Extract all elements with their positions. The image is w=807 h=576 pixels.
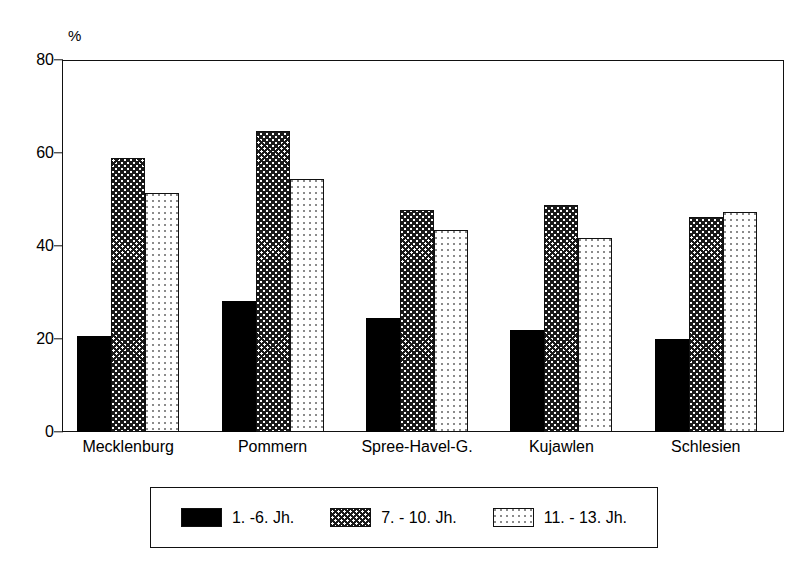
bars-layer — [62, 60, 784, 432]
x-tick-label: Mecklenburg — [82, 437, 174, 456]
legend-label: 7. - 10. Jh. — [381, 510, 457, 526]
legend-swatch-checkered — [330, 508, 371, 527]
bar[interactable] — [77, 336, 111, 432]
bar[interactable] — [434, 230, 468, 432]
x-tick-label: Spree-Havel-G. — [361, 437, 472, 456]
bar[interactable] — [689, 217, 723, 432]
x-axis-labels: MecklenburgPommernSpree-Havel-G.Kujawlen… — [62, 437, 784, 467]
bar[interactable] — [145, 193, 179, 432]
bar[interactable] — [655, 339, 689, 432]
legend-item[interactable]: 1. -6. Jh. — [181, 508, 294, 527]
bar[interactable] — [290, 179, 324, 432]
x-tick-label: Schlesien — [671, 437, 740, 456]
bar[interactable] — [400, 210, 434, 432]
bar[interactable] — [544, 205, 578, 432]
bar-group — [655, 60, 757, 432]
legend-label: 1. -6. Jh. — [232, 510, 294, 526]
bar[interactable] — [222, 301, 256, 432]
bar[interactable] — [111, 158, 145, 432]
y-axis-unit-label: % — [68, 28, 82, 43]
legend-label: 11. - 13. Jh. — [544, 510, 627, 526]
legend: 1. -6. Jh.7. - 10. Jh.11. - 13. Jh. — [150, 487, 658, 548]
bar[interactable] — [366, 318, 400, 432]
bar-chart-figure: % 020406080 MecklenburgPommernSpree-Have… — [0, 0, 807, 576]
bar-group — [77, 60, 179, 432]
legend-item[interactable]: 11. - 13. Jh. — [493, 508, 627, 527]
legend-entries: 1. -6. Jh.7. - 10. Jh.11. - 13. Jh. — [151, 488, 657, 547]
y-tick-label: 80 — [0, 52, 54, 68]
bar-group — [366, 60, 468, 432]
y-tick-label: 20 — [0, 331, 54, 347]
legend-swatch-solid-black — [181, 508, 222, 527]
bar[interactable] — [723, 212, 757, 432]
y-axis-labels: 020406080 — [0, 48, 54, 444]
y-tick-label: 0 — [0, 424, 54, 440]
bar[interactable] — [256, 131, 290, 432]
legend-item[interactable]: 7. - 10. Jh. — [330, 508, 457, 527]
y-tick-label: 40 — [0, 238, 54, 254]
bar[interactable] — [510, 330, 544, 432]
bar-group — [510, 60, 612, 432]
x-tick-label: Pommern — [238, 437, 307, 456]
x-tick-label: Kujawlen — [529, 437, 594, 456]
y-tick-label: 60 — [0, 145, 54, 161]
bar-group — [222, 60, 324, 432]
bar[interactable] — [578, 238, 612, 432]
legend-swatch-dotted — [493, 508, 534, 527]
